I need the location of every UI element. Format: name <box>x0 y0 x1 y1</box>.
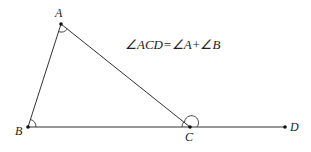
angle-mark-a <box>59 29 68 32</box>
triangle-diagram: A B C D ∠ACD=∠A+∠B <box>0 0 311 152</box>
point-b <box>26 125 30 129</box>
label-c: C <box>185 130 194 144</box>
segment-ab <box>28 24 61 127</box>
angle-mark-acd <box>185 116 199 127</box>
label-b: B <box>15 124 23 138</box>
label-d: D <box>289 120 299 134</box>
angle-mark-acb <box>182 122 184 127</box>
equation-text: ∠ACD=∠A+∠B <box>125 37 220 52</box>
point-d <box>283 125 287 129</box>
point-a <box>59 22 63 26</box>
angle-mark-b <box>30 119 36 127</box>
point-c <box>188 125 192 129</box>
label-a: A <box>54 6 63 20</box>
